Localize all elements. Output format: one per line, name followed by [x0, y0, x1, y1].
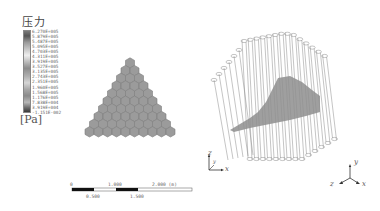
- scale-label-15: 1.500: [130, 194, 144, 199]
- scale-label-1: 1.000: [108, 182, 122, 187]
- axis-label-x-right: x: [362, 180, 366, 188]
- tick-label: 2.351E+005: [32, 79, 61, 84]
- legend-unit: [Pa]: [20, 113, 42, 126]
- scale-label-05: 0.500: [86, 194, 100, 199]
- legend-title: 压力: [22, 13, 46, 29]
- rod-bundle-3d-view: [210, 20, 340, 170]
- tick-label: 1.960E+005: [32, 85, 61, 90]
- axis-triad-right: [335, 160, 365, 190]
- tick-label: 3.919E+004: [32, 105, 61, 110]
- tick-label: 7.838E+004: [32, 100, 61, 105]
- tick-label: 1.176E+005: [32, 95, 61, 100]
- colorbar-ticks: 6.270E+005 5.879E+005 5.487E+005 5.095E+…: [32, 29, 61, 115]
- axis-label-y-right: y: [354, 158, 358, 166]
- scale-label-0: 0: [70, 182, 73, 187]
- tick-label: 1.568E+005: [32, 90, 61, 95]
- axis-label-z-right: z: [330, 180, 334, 188]
- hex-bundle-cross-section: [70, 55, 190, 160]
- pressure-colorbar: [23, 30, 31, 113]
- scale-label-2: 2.000 (m): [152, 182, 177, 187]
- scale-bar: [68, 178, 208, 208]
